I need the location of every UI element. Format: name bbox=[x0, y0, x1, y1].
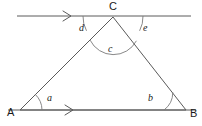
geometry-svg: A B C a b c d e bbox=[0, 0, 202, 126]
angle-arc-b bbox=[164, 92, 173, 110]
vertex-label-B: B bbox=[190, 107, 197, 119]
angle-label-a: a bbox=[47, 92, 52, 103]
angle-label-e: e bbox=[143, 22, 148, 33]
side-AC bbox=[20, 17, 113, 110]
angle-arc-c bbox=[90, 40, 136, 55]
angle-label-c: c bbox=[108, 43, 113, 54]
vertex-label-A: A bbox=[7, 106, 15, 118]
angle-label-b: b bbox=[148, 92, 153, 103]
angle-arc-a bbox=[35, 94, 42, 110]
vertex-label-C: C bbox=[109, 0, 117, 12]
geometry-diagram-canvas: A B C a b c d e bbox=[0, 0, 202, 126]
